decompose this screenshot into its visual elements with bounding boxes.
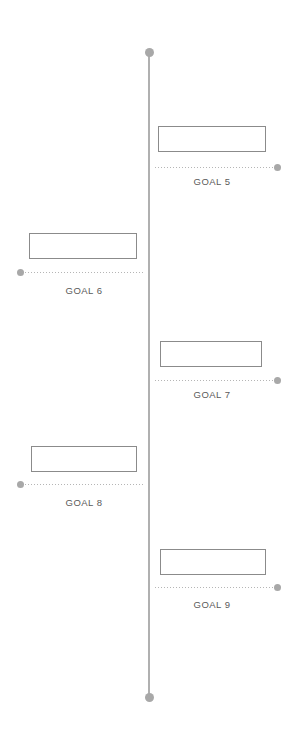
milestone-connector-line <box>155 587 274 588</box>
milestone-connector-line <box>155 167 274 168</box>
milestone-box[interactable] <box>158 126 266 152</box>
timeline-axis-line <box>148 52 150 697</box>
milestone-label: GOAL 8 <box>24 497 144 508</box>
milestone-label: GOAL 6 <box>24 285 144 296</box>
goal-timeline-diagram: GOAL 5GOAL 6GOAL 7GOAL 8GOAL 9 <box>0 0 295 749</box>
milestone-box[interactable] <box>29 233 137 259</box>
milestone-box[interactable] <box>160 341 262 367</box>
milestone-label: GOAL 7 <box>152 389 272 400</box>
milestone-connector-line <box>22 272 144 273</box>
milestone-label: GOAL 5 <box>152 176 272 187</box>
timeline-start-dot <box>145 48 154 57</box>
milestone-end-dot <box>274 377 281 384</box>
milestone-end-dot <box>274 164 281 171</box>
milestone-label: GOAL 9 <box>152 599 272 610</box>
milestone-box[interactable] <box>160 549 266 575</box>
milestone-end-dot <box>274 584 281 591</box>
milestone-end-dot <box>17 269 24 276</box>
milestone-end-dot <box>17 481 24 488</box>
milestone-box[interactable] <box>31 446 137 472</box>
milestone-connector-line <box>22 484 144 485</box>
timeline-end-dot <box>145 693 154 702</box>
milestone-connector-line <box>155 380 274 381</box>
